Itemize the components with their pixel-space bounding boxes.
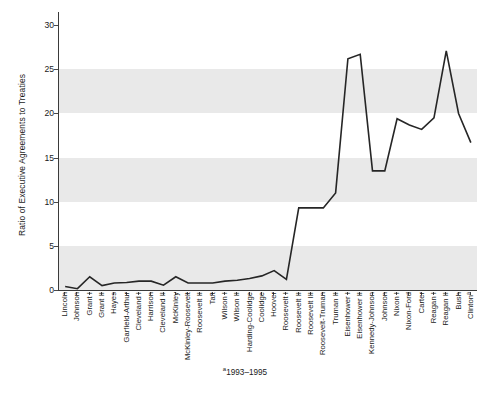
y-tick-mark — [54, 246, 58, 247]
x-tick-label: Cleveland II — [156, 292, 168, 368]
x-tick-label-text: Truman II — [330, 292, 339, 325]
x-tick-label-text: Nixon I — [392, 292, 401, 316]
x-tick-label-text: Kennedy-Johnson — [367, 292, 376, 354]
x-tick-label: Reagan I — [427, 292, 439, 368]
x-tick-label: Roosevelt I — [279, 292, 291, 368]
x-tick-label-text: Nixon-Ford — [404, 292, 413, 330]
x-tick-label: Wilson II — [230, 292, 242, 368]
x-tick-label-text: Grant I — [84, 292, 93, 316]
x-tick-label-text: Eisenhower II — [355, 292, 364, 339]
x-tick-label: Taft — [206, 292, 218, 368]
x-tick-label: Kennedy-Johnson — [365, 292, 377, 368]
x-tick-label-text: Johnson — [379, 292, 388, 321]
x-tick-label: Reagan II — [439, 292, 451, 368]
x-tick-label: Hayes — [107, 292, 119, 368]
x-tick-label: Harrison — [144, 292, 156, 368]
plot-area — [58, 12, 477, 291]
y-tick-mark — [54, 113, 58, 114]
x-tick-label-text: Bush — [453, 292, 462, 310]
y-tick-label: 30 — [30, 20, 54, 30]
x-tick-label: Bush — [451, 292, 463, 368]
x-tick-label-text: Reagan II — [441, 292, 450, 325]
y-tick-label: 5 — [30, 241, 54, 251]
x-tick-label: Eisenhower II — [353, 292, 365, 368]
y-axis-tick-labels: 051015202530 — [28, 0, 54, 410]
x-tick-label: Roosevelt-Truman — [316, 292, 328, 368]
x-tick-label-text: McKinley-Roosevelt — [183, 292, 192, 360]
x-tick-label-text: Cleveland II — [158, 292, 167, 333]
x-tick-label-text: Wilson I — [219, 292, 228, 319]
x-tick-label-text: Hayes — [109, 292, 118, 314]
x-tick-label-text: Harding-Coolidge — [244, 292, 253, 352]
x-tick-label-text: Taft — [207, 292, 216, 304]
x-tick-label: Roosevelt II — [292, 292, 304, 368]
x-tick-label: Johnson — [70, 292, 82, 368]
x-tick-label-text: Roosevelt II — [293, 292, 302, 333]
x-tick-label-text: Harrison — [146, 292, 155, 321]
x-tick-label: Roosevelt II — [193, 292, 205, 368]
line-series — [59, 12, 477, 290]
y-tick-label: 10 — [30, 197, 54, 207]
x-tick-label: Coolidge — [255, 292, 267, 368]
footnote-text: 1993–1995 — [226, 368, 267, 377]
x-tick-label-text: Roosevelt II — [195, 292, 204, 333]
x-tick-label-text: Garfield-Arthur — [121, 292, 130, 343]
y-tick-mark — [54, 69, 58, 70]
x-tick-label: Hoover — [267, 292, 279, 368]
x-tick-label: Johnson — [378, 292, 390, 368]
x-tick-label: Eisenhower I — [341, 292, 353, 368]
y-tick-mark — [54, 25, 58, 26]
x-tick-label: Nixon I — [390, 292, 402, 368]
x-tick-label-text: Lincoln — [60, 292, 69, 316]
x-tick-label: Harding-Coolidge — [242, 292, 254, 368]
x-tick-label-text: Clintona — [465, 292, 476, 319]
x-tick-label: Grant I — [83, 292, 95, 368]
chart-figure: Ratio of Executive Agreements to Treatie… — [0, 0, 490, 410]
x-tick-label-text: Wilson II — [232, 292, 241, 322]
x-tick-label-text: Carter — [416, 292, 425, 313]
x-tick-label: Grant II — [95, 292, 107, 368]
y-tick-label: 15 — [30, 153, 54, 163]
x-tick-label: Garfield-Arthur — [119, 292, 131, 368]
x-tick-label-text: Roosevelt I — [281, 292, 290, 331]
x-tick-label-text: Cleveland I — [133, 292, 142, 331]
x-tick-label: McKinley-Roosevelt — [181, 292, 193, 368]
x-tick-label: Clintona — [464, 292, 476, 368]
x-tick-label-text: Eisenhower I — [342, 292, 351, 337]
x-tick-label-text: Johnson — [72, 292, 81, 321]
data-line-path — [65, 51, 471, 289]
x-tick-label: Wilson I — [218, 292, 230, 368]
y-tick-label: 25 — [30, 64, 54, 74]
chart-footnote: a1993–1995 — [0, 366, 490, 377]
x-tick-label-superscript: a — [465, 292, 471, 295]
y-axis-title-text: Ratio of Executive Agreements to Treatie… — [17, 74, 27, 236]
y-tick-mark — [54, 202, 58, 203]
x-tick-label: Carter — [415, 292, 427, 368]
y-tick-mark — [54, 158, 58, 159]
x-tick-label: Roosevelt III — [304, 292, 316, 368]
x-tick-label: Lincoln — [58, 292, 70, 368]
y-tick-label: 20 — [30, 108, 54, 118]
y-tick-mark — [54, 290, 58, 291]
x-tick-label-text: Grant II — [97, 292, 106, 318]
x-tick-label-text: McKinley — [170, 292, 179, 323]
x-tick-label-text: Reagan I — [428, 292, 437, 323]
x-tick-label-text: Hoover — [269, 292, 278, 317]
x-tick-label: Truman II — [328, 292, 340, 368]
x-axis-tick-labels: LincolnJohnsonGrant IGrant IIHayesGarfie… — [58, 292, 476, 370]
x-tick-label-text: Coolidge — [256, 292, 265, 322]
x-tick-label: McKinley — [169, 292, 181, 368]
x-tick-label-text: Roosevelt III — [306, 292, 315, 335]
x-tick-label: Nixon-Ford — [402, 292, 414, 368]
y-tick-label: 0 — [30, 285, 54, 295]
x-tick-label: Cleveland I — [132, 292, 144, 368]
x-tick-label-text: Roosevelt-Truman — [318, 292, 327, 355]
